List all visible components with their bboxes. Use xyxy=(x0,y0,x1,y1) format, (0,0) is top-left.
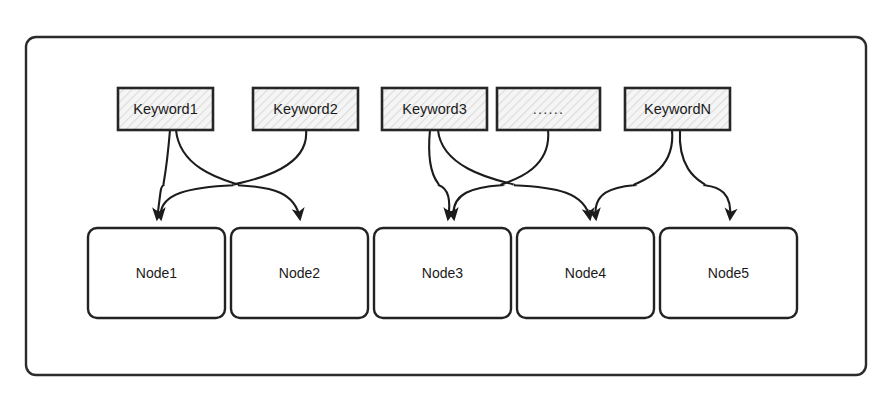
keyword-box-kwdots[interactable]: ...... xyxy=(497,88,600,130)
keyword-label: Keyword1 xyxy=(133,101,197,117)
node-label: Node5 xyxy=(708,265,749,281)
nodes-layer: Node1Node2Node3Node4Node5 xyxy=(88,228,797,318)
node-box-n5[interactable]: Node5 xyxy=(660,228,797,318)
node-box-n1[interactable]: Node1 xyxy=(88,228,225,318)
keyword-label: KeywordN xyxy=(644,101,711,117)
diagram-canvas: Keyword1Keyword2Keyword3......KeywordN N… xyxy=(0,0,892,405)
keyword-box-kw1[interactable]: Keyword1 xyxy=(118,88,213,130)
keyword-label: Keyword3 xyxy=(402,101,466,117)
node-label: Node1 xyxy=(136,265,177,281)
node-box-n4[interactable]: Node4 xyxy=(517,228,654,318)
node-label: Node2 xyxy=(279,265,320,281)
keyword-box-kwn[interactable]: KeywordN xyxy=(625,88,730,130)
keyword-label: ...... xyxy=(533,101,564,117)
keyword-box-kw2[interactable]: Keyword2 xyxy=(253,88,358,130)
keyword-box-kw3[interactable]: Keyword3 xyxy=(382,88,487,130)
node-box-n2[interactable]: Node2 xyxy=(231,228,368,318)
node-label: Node3 xyxy=(422,265,463,281)
keyword-node-diagram: Keyword1Keyword2Keyword3......KeywordN N… xyxy=(0,0,892,405)
keywords-layer: Keyword1Keyword2Keyword3......KeywordN xyxy=(118,88,730,130)
keyword-label: Keyword2 xyxy=(273,101,337,117)
node-box-n3[interactable]: Node3 xyxy=(374,228,511,318)
node-label: Node4 xyxy=(565,265,606,281)
